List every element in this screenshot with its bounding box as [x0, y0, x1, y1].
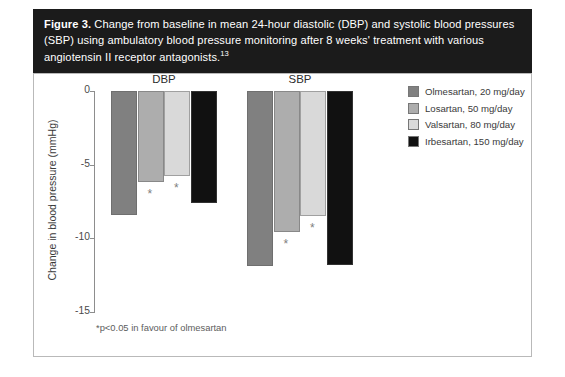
- figure-caption: Figure 3. Change from baseline in mean 2…: [33, 9, 532, 73]
- group-label-sbp: SBP: [260, 73, 340, 85]
- legend-item: Valsartan, 80 mg/day: [408, 119, 533, 130]
- bar-dbp-valsartan: [164, 91, 190, 176]
- legend-item: Irbesartan, 150 mg/day: [408, 136, 533, 147]
- bar-dbp-irbesartan: [191, 91, 217, 203]
- legend-label: Losartan, 50 mg/day: [425, 103, 512, 114]
- chart-legend: Olmesartan, 20 mg/dayLosartan, 50 mg/day…: [408, 86, 533, 152]
- legend-label: Valsartan, 80 mg/day: [425, 119, 515, 130]
- y-axis-title: Change in blood pressure (mmHg): [46, 105, 58, 295]
- y-axis-line: [94, 91, 95, 312]
- bar-dbp-olmesartan: [111, 91, 137, 215]
- chart-panel: Change in blood pressure (mmHg) 0-5-10-1…: [33, 73, 532, 357]
- chart-footnote: *p<0.05 in favour of olmesartan: [96, 322, 227, 333]
- bar-sbp-valsartan: [300, 91, 326, 216]
- bar-sbp-losartan: [274, 91, 300, 232]
- bar-dbp-losartan: [138, 91, 164, 182]
- y-tick-label: -10: [56, 231, 90, 242]
- y-tick-mark: [90, 165, 95, 166]
- figure-label: Figure 3.: [44, 18, 91, 30]
- significance-asterisk: *: [174, 182, 179, 194]
- legend-swatch: [408, 103, 419, 114]
- figure-container: Figure 3. Change from baseline in mean 2…: [0, 0, 565, 377]
- legend-label: Irbesartan, 150 mg/day: [425, 136, 524, 147]
- y-tick-label: -15: [56, 305, 90, 316]
- y-tick-label: -5: [56, 158, 90, 169]
- bar-sbp-irbesartan: [327, 91, 353, 265]
- bar-sbp-olmesartan: [247, 91, 273, 266]
- figure-caption-text: Change from baseline in mean 24-hour dia…: [44, 18, 514, 63]
- significance-asterisk: *: [148, 188, 153, 200]
- y-tick-mark: [90, 312, 95, 313]
- significance-asterisk: *: [310, 222, 315, 234]
- legend-swatch: [408, 136, 419, 147]
- y-tick-mark: [90, 238, 95, 239]
- figure-reference: 13: [220, 49, 229, 58]
- legend-label: Olmesartan, 20 mg/day: [425, 86, 525, 97]
- y-tick-mark: [90, 91, 95, 92]
- legend-swatch: [408, 86, 419, 97]
- legend-item: Losartan, 50 mg/day: [408, 103, 533, 114]
- legend-item: Olmesartan, 20 mg/day: [408, 86, 533, 97]
- legend-swatch: [408, 119, 419, 130]
- significance-asterisk: *: [284, 238, 289, 250]
- group-label-dbp: DBP: [124, 73, 204, 85]
- y-tick-label: 0: [56, 84, 90, 95]
